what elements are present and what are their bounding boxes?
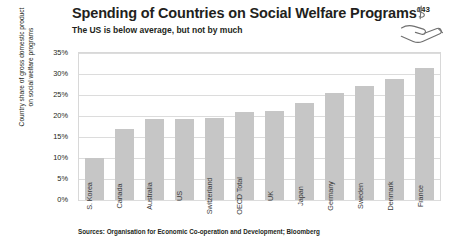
- bar[interactable]: S. Korea: [85, 158, 104, 200]
- bar[interactable]: US: [175, 119, 194, 200]
- bar-category-label: Switzerland: [205, 178, 214, 215]
- bar-series: S. KoreaCanadaAustraliaUSSwitzerlandOECD…: [79, 53, 440, 200]
- y-axis-tick-label: 25%: [28, 90, 68, 99]
- bar-category-label: Denmark: [386, 182, 395, 211]
- bar-category-label: France: [416, 185, 425, 207]
- bar-category-label: OECD Total: [235, 177, 244, 214]
- bar-category-label: S. Korea: [85, 182, 94, 210]
- y-axis-tick-label: 0%: [28, 195, 68, 204]
- y-axis-tick-label: 30%: [28, 69, 68, 78]
- bar[interactable]: France: [415, 68, 434, 200]
- chart-subtitle: The US is below average, but not by much: [72, 25, 243, 35]
- y-axis-tick-label: 15%: [28, 132, 68, 141]
- bar-category-label: Canada: [115, 184, 124, 209]
- bar-category-label: US: [175, 191, 184, 201]
- bar[interactable]: Canada: [115, 129, 134, 200]
- bar[interactable]: Sweden: [355, 86, 374, 200]
- bar[interactable]: OECD Total: [235, 112, 254, 200]
- chart-title: Spending of Countries on Social Welfare …: [72, 5, 430, 21]
- bar[interactable]: Switzerland: [205, 118, 224, 200]
- bar-category-label: Australia: [145, 182, 154, 210]
- y-axis-tick-label: 5%: [28, 174, 68, 183]
- y-axis-tick-label: 10%: [28, 153, 68, 162]
- y-axis-tick-label: 20%: [28, 111, 68, 120]
- bar[interactable]: Japan: [295, 103, 314, 200]
- plot-area: S. KoreaCanadaAustraliaUSSwitzerlandOECD…: [78, 52, 441, 201]
- bar[interactable]: UK: [265, 111, 284, 200]
- bar[interactable]: Denmark: [385, 79, 404, 200]
- chart-figure: Spending of Countries on Social Welfare …: [0, 0, 455, 248]
- hand-holding-dollar-icon: [398, 4, 450, 46]
- bar-category-label: Sweden: [356, 183, 365, 209]
- bar[interactable]: Australia: [145, 119, 164, 200]
- chart-title-text: Spending of Countries on Social Welfare …: [72, 5, 417, 21]
- bar[interactable]: Germany: [325, 93, 344, 200]
- source-note: Sources: Organisation for Economic Co-op…: [78, 228, 320, 235]
- y-axis-title-line-1: Country share of gross domestic product: [18, 8, 27, 127]
- bar-category-label: UK: [266, 191, 275, 201]
- bar-category-label: Japan: [296, 186, 305, 205]
- bar-category-label: Germany: [326, 181, 335, 210]
- y-axis-tick-label: 35%: [28, 48, 68, 57]
